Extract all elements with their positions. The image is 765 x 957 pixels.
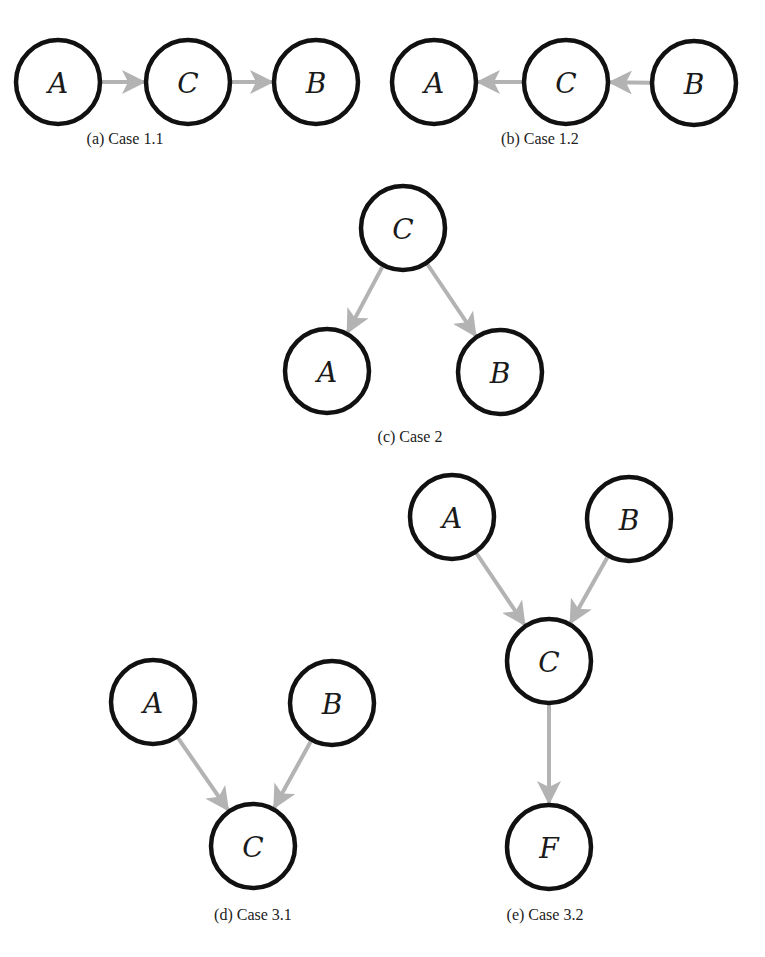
edge-a-to-c: [477, 553, 525, 624]
panel-b: ACB(b) Case 1.2: [392, 40, 736, 148]
node-label: A: [314, 356, 337, 389]
edge-b-to-c: [274, 742, 310, 808]
edge-b-to-c: [571, 557, 608, 622]
caption-a: (a) Case 1.1: [87, 130, 164, 148]
node-label: C: [555, 67, 576, 100]
node-f: F: [507, 805, 591, 889]
node-b: B: [587, 477, 671, 561]
node-label: B: [618, 504, 640, 537]
node-a: A: [111, 660, 195, 744]
panel-d: ABC(d) Case 3.1: [111, 660, 374, 924]
node-label: B: [305, 67, 327, 100]
edge-c-to-b: [428, 264, 476, 335]
causal-diagram-figure: ACB(a) Case 1.1ACB(b) Case 1.2CAB(c) Cas…: [0, 0, 765, 957]
node-c: C: [507, 619, 591, 703]
node-label: C: [392, 213, 413, 246]
node-a: A: [392, 40, 476, 124]
panel-c: CAB(c) Case 2: [285, 186, 542, 446]
node-label: A: [140, 687, 163, 720]
node-c: C: [146, 40, 230, 124]
node-label: A: [45, 67, 68, 100]
node-label: B: [321, 688, 343, 721]
edge-a-to-c: [178, 738, 228, 810]
caption-b: (b) Case 1.2: [501, 130, 579, 148]
panel-a: ACB(a) Case 1.1: [16, 40, 358, 148]
node-label: A: [421, 67, 444, 100]
node-label: B: [683, 68, 705, 101]
node-label: F: [538, 832, 560, 865]
node-b: B: [458, 330, 542, 414]
figure-panels: ACB(a) Case 1.1ACB(b) Case 1.2CAB(c) Cas…: [16, 40, 736, 924]
node-a: A: [410, 475, 494, 559]
node-a: A: [285, 329, 369, 413]
panel-e: ABCF(e) Case 3.2: [410, 475, 671, 924]
node-label: C: [538, 646, 559, 679]
node-a: A: [16, 40, 100, 124]
node-c: C: [361, 186, 445, 270]
node-b: B: [290, 661, 374, 745]
node-label: C: [177, 67, 198, 100]
node-b: B: [652, 41, 736, 125]
edge-c-to-a: [348, 267, 383, 332]
caption-e: (e) Case 3.2: [507, 906, 584, 924]
node-c: C: [211, 804, 295, 888]
node-label: C: [242, 831, 263, 864]
caption-d: (d) Case 3.1: [214, 906, 292, 924]
node-label: A: [439, 502, 462, 535]
node-b: B: [274, 40, 358, 124]
node-label: B: [489, 357, 511, 390]
caption-c: (c) Case 2: [378, 428, 443, 446]
node-c: C: [524, 40, 608, 124]
